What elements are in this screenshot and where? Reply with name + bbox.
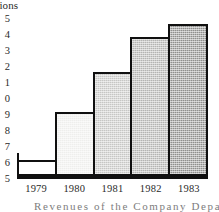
bar-1981[interactable] xyxy=(93,72,133,176)
y-tick-label: 7 xyxy=(0,142,10,152)
x-tick-label-1983: 1983 xyxy=(170,182,208,196)
bar-1980[interactable] xyxy=(55,112,95,176)
figure-caption: Revenues of the Company Department xyxy=(34,202,194,212)
x-axis-baseline xyxy=(17,176,208,179)
y-tick-label: 8 xyxy=(0,126,10,136)
y-axis-title: illions xyxy=(0,0,18,11)
x-axis-tick-labels: 1979 1980 1981 1982 1983 xyxy=(17,182,208,196)
y-tick-label: 5 xyxy=(0,14,10,24)
plot-area xyxy=(17,14,208,179)
x-tick-label-1982: 1982 xyxy=(132,182,170,196)
x-tick-label-1981: 1981 xyxy=(93,182,131,196)
y-tick-label: 1 xyxy=(0,78,10,88)
y-tick-label: 9 xyxy=(0,110,10,120)
x-tick-label-1980: 1980 xyxy=(55,182,93,196)
bar-series xyxy=(17,14,208,176)
figure-caption-clip: Revenues of the Company Department xyxy=(0,202,219,212)
y-tick-label: 6 xyxy=(0,158,10,168)
y-tick-label: 3 xyxy=(0,46,10,56)
bar-1979[interactable] xyxy=(17,160,57,176)
y-tick-label: 4 xyxy=(0,30,10,40)
bar-1982[interactable] xyxy=(130,37,170,176)
bar-chart-figure: illions 5 4 3 2 1 0 9 8 7 6 5 1979 1980 … xyxy=(0,0,219,212)
y-tick-label: 2 xyxy=(0,62,10,72)
bar-1983[interactable] xyxy=(168,24,208,176)
y-tick-label: 0 xyxy=(0,94,10,104)
y-tick-label: 5 xyxy=(0,174,10,184)
x-tick-label-1979: 1979 xyxy=(17,182,55,196)
